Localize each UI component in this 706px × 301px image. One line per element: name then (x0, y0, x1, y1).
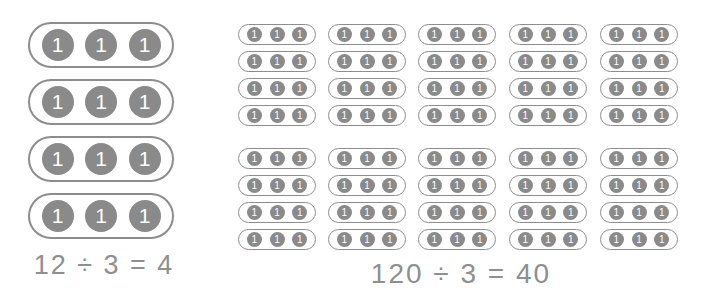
group-column: 111 111 111 111 (600, 148, 680, 256)
counter-chip: 1 (247, 54, 262, 69)
counter-group: 111 (328, 105, 406, 126)
group-column: 111 111 111 111 (509, 24, 589, 132)
counter-group: 111 (418, 24, 496, 45)
counter-chip: 1 (609, 151, 624, 166)
counter-chip: 1 (337, 178, 352, 193)
left-division-model: 1 1 1 1 1 1 1 1 1 1 1 1 (28, 22, 180, 247)
counter-group: 111 (238, 51, 316, 72)
counter-group: 111 (328, 202, 406, 223)
counter-chip: 1 (292, 151, 307, 166)
counter-chip: 1 (654, 54, 669, 69)
counter-chip: 1 (541, 178, 556, 193)
counter-group: 111 (600, 105, 678, 126)
counter-chip: 1 (247, 27, 262, 42)
counter-chip: 1 (450, 27, 465, 42)
counter-group: 111 (600, 175, 678, 196)
counter-chip: 1 (427, 151, 442, 166)
counter-chip: 1 (337, 151, 352, 166)
counter-chip: 1 (247, 151, 262, 166)
counter-group: 111 (328, 175, 406, 196)
counter-chip: 1 (450, 232, 465, 247)
counter-chip: 1 (632, 108, 647, 123)
counter-group: 111 (238, 229, 316, 250)
counter-chip: 1 (427, 27, 442, 42)
counter-chip: 1 (632, 151, 647, 166)
counter-chip: 1 (382, 108, 397, 123)
group-column: 111 111 111 111 (418, 24, 498, 132)
counter-group: 111 (238, 148, 316, 169)
counter-chip: 1 (360, 178, 375, 193)
counter-chip: 1 (382, 178, 397, 193)
counter-group: 111 (418, 148, 496, 169)
counter-chip: 1 (518, 151, 533, 166)
counter-chip: 1 (427, 205, 442, 220)
counter-chip: 1 (292, 205, 307, 220)
counter-chip: 1 (85, 29, 117, 61)
counter-chip: 1 (472, 54, 487, 69)
group-block: 111 111 111 111 111 111 111 111 111 111 … (238, 24, 684, 132)
counter-chip: 1 (450, 108, 465, 123)
counter-chip: 1 (450, 54, 465, 69)
counter-chip: 1 (292, 81, 307, 96)
counter-chip: 1 (609, 81, 624, 96)
counter-group: 111 (238, 24, 316, 45)
counter-chip: 1 (472, 232, 487, 247)
counter-chip: 1 (541, 232, 556, 247)
counter-group: 111 (238, 78, 316, 99)
counter-group: 111 (600, 51, 678, 72)
counter-group: 111 (600, 78, 678, 99)
counter-group: 111 (509, 175, 587, 196)
counter-chip: 1 (270, 54, 285, 69)
counter-chip: 1 (541, 108, 556, 123)
counter-group: 111 (509, 105, 587, 126)
counter-group: 111 (509, 229, 587, 250)
counter-group: 111 (509, 78, 587, 99)
counter-chip: 1 (609, 232, 624, 247)
counter-chip: 1 (563, 178, 578, 193)
counter-chip: 1 (337, 81, 352, 96)
counter-chip: 1 (563, 232, 578, 247)
counter-chip: 1 (472, 81, 487, 96)
counter-group: 111 (328, 229, 406, 250)
counter-chip: 1 (450, 151, 465, 166)
group-column: 111 111 111 111 (418, 148, 498, 256)
counter-chip: 1 (472, 178, 487, 193)
counter-chip: 1 (518, 232, 533, 247)
group-column: 111 111 111 111 (238, 24, 318, 132)
counter-chip: 1 (427, 178, 442, 193)
counter-group: 111 (418, 229, 496, 250)
counter-group: 111 (509, 148, 587, 169)
counter-chip: 1 (292, 178, 307, 193)
counter-chip: 1 (270, 151, 285, 166)
counter-chip: 1 (270, 178, 285, 193)
counter-chip: 1 (563, 151, 578, 166)
counter-chip: 1 (518, 108, 533, 123)
counter-chip: 1 (427, 232, 442, 247)
counter-chip: 1 (518, 205, 533, 220)
counter-chip: 1 (450, 178, 465, 193)
counter-chip: 1 (472, 108, 487, 123)
counter-chip: 1 (632, 178, 647, 193)
counter-chip: 1 (292, 54, 307, 69)
counter-chip: 1 (85, 143, 117, 175)
counter-chip: 1 (563, 27, 578, 42)
counter-chip: 1 (292, 108, 307, 123)
counter-chip: 1 (632, 232, 647, 247)
counter-chip: 1 (42, 143, 74, 175)
counter-chip: 1 (541, 151, 556, 166)
counter-chip: 1 (360, 205, 375, 220)
counter-chip: 1 (563, 205, 578, 220)
counter-chip: 1 (360, 27, 375, 42)
counter-chip: 1 (654, 27, 669, 42)
counter-group: 111 (418, 175, 496, 196)
counter-chip: 1 (382, 232, 397, 247)
counter-chip: 1 (427, 81, 442, 96)
counter-group: 111 (418, 51, 496, 72)
counter-chip: 1 (382, 205, 397, 220)
counter-chip: 1 (42, 86, 74, 118)
counter-chip: 1 (42, 200, 74, 232)
counter-group: 111 (328, 78, 406, 99)
counter-chip: 1 (609, 108, 624, 123)
counter-chip: 1 (129, 200, 161, 232)
counter-group: 1 1 1 (28, 22, 174, 68)
